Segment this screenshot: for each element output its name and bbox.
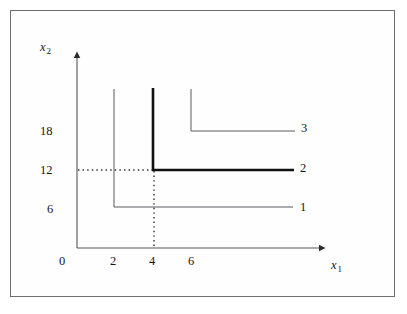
- y-axis-title: x2: [40, 41, 50, 54]
- figure-root: 18 12 6 0 2 4 6 1 2 3 x1 x2: [0, 0, 407, 314]
- curve-label-3: 3: [301, 122, 307, 135]
- curve-label-1: 1: [300, 201, 306, 214]
- isoquant-curve-2: [153, 88, 294, 170]
- y-tick-label-12: 12: [40, 164, 53, 177]
- isoquant-curve-1: [114, 89, 293, 207]
- isoquant-curve-3: [191, 89, 295, 131]
- x-tick-label-6: 6: [188, 255, 194, 268]
- y-tick-label-18: 18: [40, 125, 53, 138]
- x-axis-title-base: x: [331, 258, 337, 272]
- origin-label: 0: [59, 255, 65, 268]
- y-axis-title-base: x: [40, 40, 46, 54]
- x-tick-label-2: 2: [110, 255, 116, 268]
- y-axis-title-subscript: 2: [47, 46, 52, 56]
- x-tick-label-4: 4: [149, 255, 155, 268]
- y-tick-label-6: 6: [47, 203, 53, 216]
- x-axis-title: x1: [331, 259, 341, 272]
- curve-label-2: 2: [300, 162, 306, 175]
- x-axis-title-subscript: 1: [338, 264, 343, 274]
